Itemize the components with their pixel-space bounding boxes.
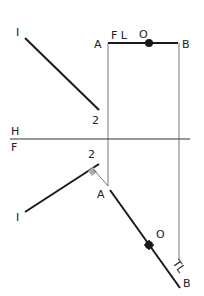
label-bot-B: B — [183, 277, 191, 290]
label-fold-H: H — [11, 125, 19, 138]
label-bot-TL: TL — [169, 256, 188, 276]
label-top-1: I — [16, 26, 19, 39]
top-line-1-2 — [25, 38, 99, 110]
label-bot-A: A — [97, 188, 105, 201]
label-top-O: O — [139, 28, 148, 41]
label-bot-1: I — [16, 211, 19, 224]
label-bot-2: 2 — [88, 148, 95, 161]
label-fold-F: F — [11, 141, 17, 154]
front-extension — [94, 170, 108, 186]
label-top-B: B — [182, 38, 190, 51]
front-line-1-2 — [25, 164, 99, 212]
label-top-A: A — [94, 38, 102, 51]
projection-diagram: I 2 A F L O B H F 2 I A O TL B — [0, 0, 204, 296]
label-bot-O: O — [156, 228, 165, 241]
label-top-2: 2 — [92, 114, 99, 127]
front-line-AB-TL — [110, 190, 180, 288]
label-top-FL: F L — [111, 29, 128, 42]
